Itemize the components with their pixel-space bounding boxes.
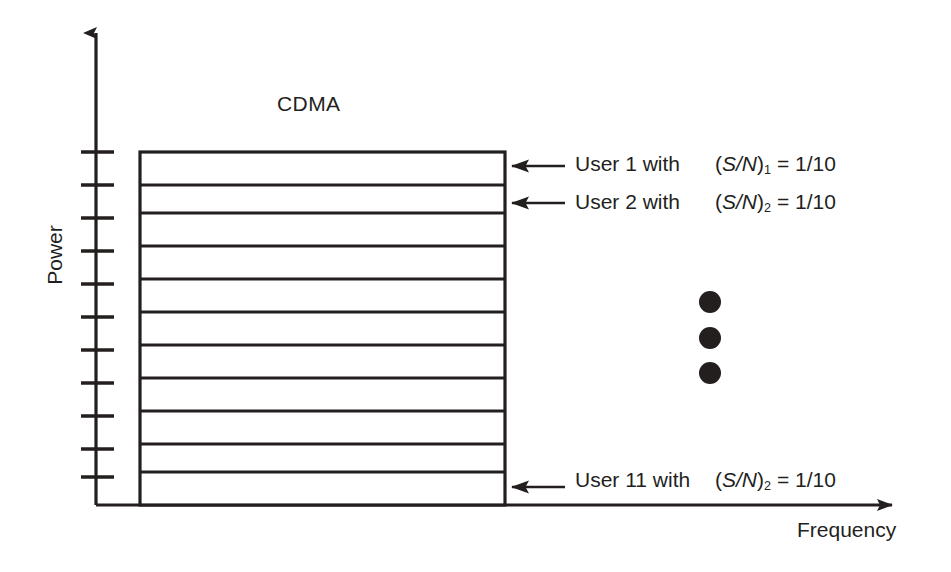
ellipsis-dot bbox=[699, 291, 721, 313]
x-axis-label: Frequency bbox=[797, 518, 896, 542]
annotation-label-user11: User 11 with (S/N)2 = 1/10 bbox=[575, 468, 836, 493]
annotation-label-user1: User 1 with (S/N)1 = 1/10 bbox=[575, 152, 836, 177]
annotation-user-text: User 2 with bbox=[575, 190, 715, 214]
cdma-band-block bbox=[140, 152, 505, 505]
annotation-snr-user2: (S/N)2 = 1/10 bbox=[715, 190, 836, 215]
ellipsis-dot bbox=[699, 362, 721, 384]
y-axis-label: Power bbox=[43, 218, 67, 292]
annotation-arrows bbox=[512, 166, 565, 487]
vertical-ellipsis-icon bbox=[699, 291, 721, 384]
annotation-snr-user11: (S/N)2 = 1/10 bbox=[715, 468, 836, 493]
annotation-label-user2: User 2 with (S/N)2 = 1/10 bbox=[575, 190, 836, 215]
chart-title: CDMA bbox=[277, 92, 340, 116]
annotation-user-text: User 11 with bbox=[575, 468, 715, 492]
annotation-snr-user1: (S/N)1 = 1/10 bbox=[715, 152, 836, 177]
annotation-user-text: User 1 with bbox=[575, 152, 715, 176]
cdma-spectrum-diagram: CDMA Power Frequency User 1 with (S/N)1 … bbox=[0, 0, 951, 572]
ellipsis-dot bbox=[699, 327, 721, 349]
